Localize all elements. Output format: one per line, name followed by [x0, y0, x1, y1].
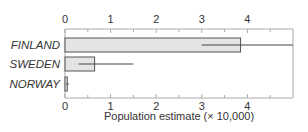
- top-tick-label: 1: [108, 13, 114, 25]
- top-tick-label: 3: [199, 13, 205, 25]
- category-label-sweden: SWEDEN: [10, 58, 61, 70]
- top-tick-label: 2: [153, 13, 159, 25]
- category-label-finland: FINLAND: [11, 39, 60, 51]
- axes: 0011223344: [62, 13, 293, 112]
- top-tick-label: 4: [244, 13, 250, 25]
- x-axis-label: Population estimate (× 10,000): [104, 110, 254, 122]
- bottom-tick-label: 0: [62, 100, 68, 112]
- category-labels: FINLANDSWEDENNORWAY: [10, 39, 62, 90]
- bars: [65, 38, 293, 91]
- chart-canvas: 0011223344 FINLANDSWEDENNORWAY Populatio…: [0, 0, 308, 132]
- population-bar-chart: 0011223344 FINLANDSWEDENNORWAY Populatio…: [0, 0, 308, 132]
- category-label-norway: NORWAY: [10, 78, 62, 90]
- top-tick-label: 0: [62, 13, 68, 25]
